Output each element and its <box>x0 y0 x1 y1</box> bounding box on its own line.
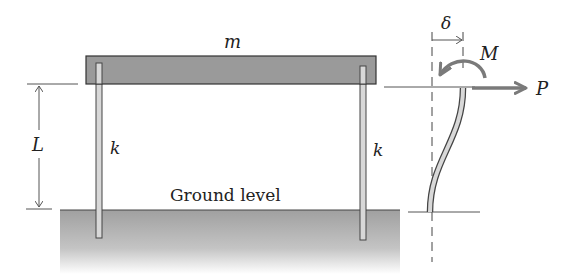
stiffness-right-label: k <box>373 140 383 160</box>
right-column <box>360 66 366 240</box>
frame-diagram: m L k k Ground level δ M P <box>0 0 576 274</box>
left-column <box>96 63 102 238</box>
force-label: P <box>535 78 549 99</box>
stiffness-left-label: k <box>110 138 120 158</box>
ground <box>60 210 400 274</box>
deflection-label: δ <box>441 13 451 33</box>
ground-level-label: Ground level <box>170 185 281 205</box>
mass-label: m <box>224 31 241 52</box>
deformed-column-detail: δ M P <box>384 13 549 262</box>
diagram-svg: m L k k Ground level δ M P <box>0 0 576 274</box>
length-label: L <box>31 134 44 155</box>
beam-mass <box>86 56 376 84</box>
moment-label: M <box>479 43 499 64</box>
